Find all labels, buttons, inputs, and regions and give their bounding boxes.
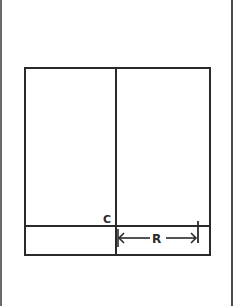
diagram-canvas: C R xyxy=(0,0,234,306)
outer-rectangle xyxy=(25,68,210,255)
corner-label-c: C xyxy=(103,213,111,226)
dimension-label-r: R xyxy=(152,232,161,246)
